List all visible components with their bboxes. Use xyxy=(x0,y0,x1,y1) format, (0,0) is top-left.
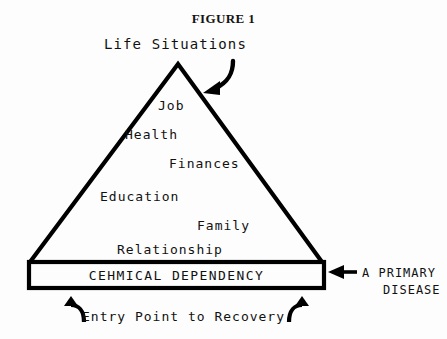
tier-label-relationship: Relationship xyxy=(117,243,223,256)
bottom-right-hook-icon xyxy=(289,296,309,322)
tier-label-education: Education xyxy=(100,190,179,203)
right-annotation-line2: DISEASE xyxy=(362,282,441,299)
apex-label: Life Situations xyxy=(104,37,247,51)
right-annotation-line1: A PRIMARY xyxy=(362,266,436,280)
tier-label-job: Job xyxy=(158,99,184,112)
tier-label-family: Family xyxy=(197,219,250,232)
bottom-annotation: Entry Point to Recovery xyxy=(82,310,285,323)
apex-arrow-icon xyxy=(203,61,233,95)
tier-label-finances: Finances xyxy=(169,157,240,170)
tier-label-health: Health xyxy=(125,128,178,141)
figure-canvas: FIGURE 1 Life Situations Job Health Fi xyxy=(0,0,447,339)
bottom-left-hook-icon xyxy=(64,296,84,322)
right-annotation: A PRIMARY DISEASE xyxy=(362,265,441,299)
base-box-label: CEHMICAL DEPENDENCY xyxy=(0,269,353,282)
